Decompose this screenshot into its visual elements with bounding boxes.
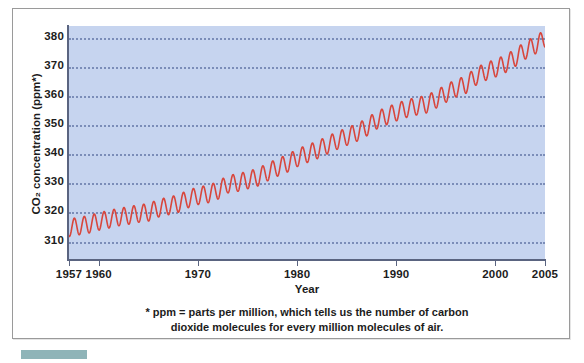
y-tick-label-310: 310: [28, 234, 64, 246]
x-tick-label-1960: 1960: [86, 268, 112, 280]
y-tick-label-380: 380: [28, 30, 64, 42]
x-axis-title: Year: [69, 283, 545, 295]
x-tick-mark-1960: [99, 259, 100, 266]
y-axis-title: CO₂ concentration (ppm*): [30, 64, 42, 224]
x-tick-label-1957: 1957: [56, 268, 82, 280]
y-axis-tick-labels: 310320330340350360370380: [22, 0, 64, 363]
x-tick-label-2005: 2005: [532, 268, 558, 280]
x-tick-mark-1970: [198, 259, 199, 266]
x-tick-mark-1957: [69, 259, 70, 266]
co2-keeling-curve-figure: 310320330340350360370380 195719601970198…: [0, 0, 584, 363]
footnote-line-1: * ppm = parts per million, which tells u…: [69, 305, 545, 320]
x-tick-label-1980: 1980: [284, 268, 310, 280]
footnote-line-2: dioxide molecules for every million mole…: [69, 320, 545, 335]
x-tick-label-1970: 1970: [185, 268, 211, 280]
x-tick-mark-2000: [495, 259, 496, 266]
co2-trend-line: [69, 33, 545, 237]
x-tick-mark-2005: [545, 259, 546, 266]
x-tick-mark-1980: [297, 259, 298, 266]
x-tick-label-1990: 1990: [383, 268, 409, 280]
decorative-swatch: [21, 350, 87, 359]
x-tick-label-2000: 2000: [482, 268, 508, 280]
x-axis-line: [67, 259, 545, 261]
co2-line-series: [69, 26, 545, 259]
footnote: * ppm = parts per million, which tells u…: [69, 305, 545, 335]
x-tick-mark-1990: [396, 259, 397, 266]
